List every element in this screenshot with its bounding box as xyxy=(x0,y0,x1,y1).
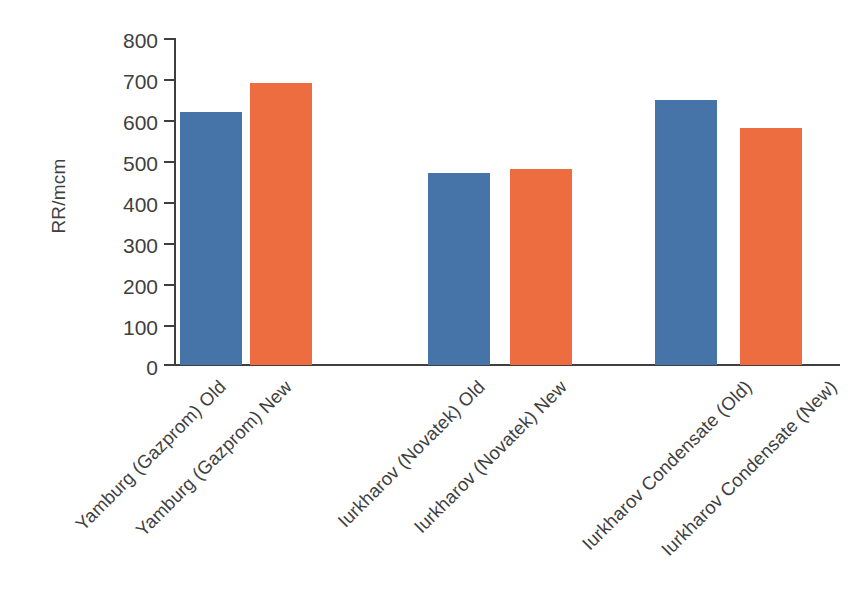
y-tick-label: 0 xyxy=(100,357,158,378)
y-tick-label: 100 xyxy=(100,317,158,338)
y-tick-label: 700 xyxy=(100,71,158,92)
y-tick-mark xyxy=(164,161,175,163)
y-tick-mark xyxy=(164,120,175,122)
y-tick-mark xyxy=(164,364,175,366)
y-tick-mark xyxy=(164,38,175,40)
bar-iurkharov-novatek-new xyxy=(510,169,572,365)
y-tick-mark xyxy=(164,243,175,245)
y-axis-title: RR/mcm xyxy=(48,131,70,261)
x-axis-label-iurkharov-novatek-new: Iurkharov (Novatek) New xyxy=(393,376,571,554)
y-tick-mark xyxy=(164,325,175,327)
y-tick-label: 300 xyxy=(100,235,158,256)
y-tick-label: 800 xyxy=(100,30,158,51)
bar-iurkharov-condensate-new xyxy=(740,128,802,365)
plot-area xyxy=(176,38,840,365)
bar-yamburg-gazprom-new xyxy=(250,83,312,365)
y-tick-mark xyxy=(164,79,175,81)
y-tick-label: 200 xyxy=(100,276,158,297)
y-tick-label: 500 xyxy=(100,153,158,174)
y-tick-label: 600 xyxy=(100,112,158,133)
bar-yamburg-gazprom-old xyxy=(180,112,242,365)
bar-chart: RR/mcm 800 700 600 500 400 300 200 100 0… xyxy=(0,0,860,598)
x-axis-label-iurkharov-novatek-old: Iurkharov (Novatek) Old xyxy=(311,376,489,554)
bar-iurkharov-novatek-old xyxy=(428,173,490,365)
bar-iurkharov-condensate-old xyxy=(655,100,717,365)
y-tick-mark xyxy=(164,202,175,204)
y-tick-mark xyxy=(164,284,175,286)
y-tick-label: 400 xyxy=(100,194,158,215)
